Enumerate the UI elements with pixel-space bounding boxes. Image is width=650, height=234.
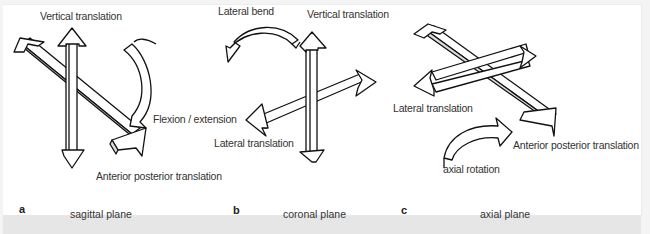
plane-label-sagittal: sagittal plane bbox=[70, 208, 132, 220]
label-vertical-translation-b: Vertical translation bbox=[307, 8, 389, 20]
label-lateral-translation-c: Lateral translation bbox=[393, 102, 473, 114]
motion-diagram bbox=[0, 0, 650, 234]
axial-rotation-arrow-icon bbox=[444, 118, 512, 168]
plane-label-axial: axial plane bbox=[480, 208, 530, 220]
panel-letter-a: a bbox=[19, 203, 25, 215]
label-axial-rotation: axial rotation bbox=[443, 163, 500, 175]
flexion-extension-arrow-icon bbox=[124, 39, 156, 128]
label-lateral-translation-b: Lateral translation bbox=[214, 137, 294, 149]
label-vertical-translation-a: Vertical translation bbox=[40, 10, 122, 22]
lateral-bend-arrow-icon bbox=[226, 27, 300, 62]
sagittal-vertical-arrow-icon bbox=[58, 28, 86, 168]
sagittal-ap-arrow-icon bbox=[14, 38, 146, 156]
label-flexion-extension: Flexion / extension bbox=[153, 113, 237, 125]
label-lateral-bend: Lateral bend bbox=[218, 5, 274, 17]
panel-letter-c: c bbox=[401, 204, 407, 216]
label-ap-translation-c: Anterior posterior translation bbox=[513, 139, 639, 151]
panel-letter-b: b bbox=[233, 204, 240, 216]
plane-label-coronal: coronal plane bbox=[283, 208, 346, 220]
label-ap-translation-a: Anterior posterior translation bbox=[96, 170, 222, 182]
